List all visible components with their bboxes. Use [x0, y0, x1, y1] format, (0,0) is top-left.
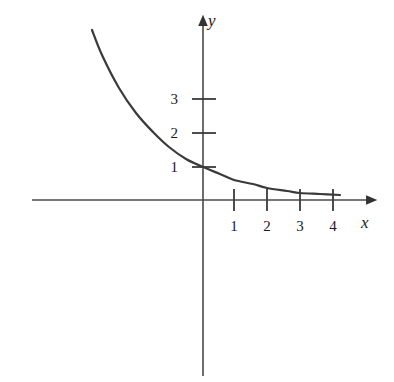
- y-tick-label-1: 1: [158, 160, 178, 175]
- plot-canvas: [0, 0, 394, 382]
- y-tick-label-3: 3: [158, 92, 178, 107]
- x-tick-label-3: 3: [293, 219, 307, 234]
- x-axis-label: x: [361, 214, 369, 231]
- x-tick-label-2: 2: [260, 219, 274, 234]
- y-axis-label: y: [208, 12, 216, 29]
- exponential-decay-curve: [92, 30, 340, 195]
- y-axis-tick-marks: [192, 99, 216, 167]
- y-tick-label-2: 2: [158, 126, 178, 141]
- graph-figure: 1 2 3 1 2 3 4 y x: [0, 0, 394, 382]
- x-tick-label-4: 4: [326, 219, 340, 234]
- x-tick-label-1: 1: [227, 219, 241, 234]
